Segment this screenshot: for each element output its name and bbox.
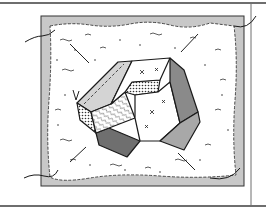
quilt-block-graphic [0, 0, 266, 210]
quilt-illustration [0, 0, 266, 210]
